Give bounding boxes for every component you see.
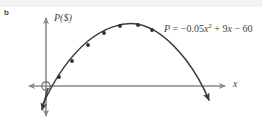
equation-annotation: P = −0.05x2 + 9x − 60	[164, 23, 253, 35]
data-point	[70, 59, 74, 63]
data-point	[57, 75, 61, 79]
figure-container: b	[0, 0, 262, 123]
y-axis-label: P($)	[54, 12, 72, 23]
data-point	[86, 43, 90, 47]
equation-equals: =	[170, 23, 181, 34]
parabola-left-tail-arrow	[42, 88, 48, 110]
data-point	[118, 24, 122, 28]
equation-operator-minus: −	[232, 23, 243, 34]
equation-constant-c: 60	[243, 23, 253, 34]
equation-operator-plus: +	[212, 23, 223, 34]
data-point	[102, 31, 106, 35]
x-axis-label: x	[233, 78, 237, 89]
data-point	[136, 23, 140, 27]
data-point-markers	[57, 23, 154, 79]
data-point	[150, 28, 154, 32]
equation-coefficient-a: −0.05	[181, 23, 204, 34]
parabola-curve	[43, 24, 209, 104]
parabola-plot	[0, 0, 262, 123]
